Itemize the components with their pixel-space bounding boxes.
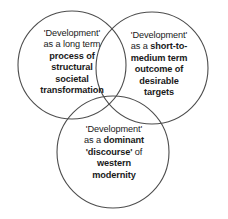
venn-label-right-line-2-bold: short-to- (150, 41, 187, 51)
venn-label-bottom-line-2: as a dominant (58, 135, 170, 146)
venn-label-bottom-line-2-plain: as a (84, 135, 103, 145)
venn-label-bottom-line-3-bold: 'discourse' (86, 147, 135, 157)
venn-label-right-line-3-bold: medium term (131, 53, 188, 63)
venn-label-right-line-5: desirable (104, 76, 214, 87)
venn-diagram: 'Development' as a long term process of … (0, 0, 228, 219)
venn-label-right-line-5-bold: desirable (139, 76, 178, 86)
venn-label-right-line-1: 'Development' (104, 30, 214, 41)
venn-label-left-line-3-bold: process of (49, 51, 94, 61)
venn-label-bottom-line-3: 'discourse' of (58, 147, 170, 158)
venn-label-right-line-6: targets (104, 87, 214, 98)
venn-label-bottom-line-3-plain: of (135, 147, 142, 157)
venn-label-left-line-5-bold: societal (55, 74, 88, 84)
venn-label-right-line-4-bold: outcome of (135, 64, 184, 74)
venn-label-right-line-6-bold: targets (144, 87, 174, 97)
venn-label-bottom-line-1: 'Development' (58, 124, 170, 135)
venn-label-bottom-line-5: modernity (58, 170, 170, 181)
venn-label-right-line-4: outcome of (104, 64, 214, 75)
venn-label-bottom-line-5-bold: modernity (92, 170, 136, 180)
venn-label-bottom-line-4: western (58, 158, 170, 169)
venn-label-bottom: 'Development' as a dominant 'discourse' … (58, 124, 170, 181)
venn-label-bottom-line-2-bold: dominant (103, 135, 144, 145)
venn-label-left-line-4-bold: structural (51, 62, 92, 72)
venn-label-right-line-2-plain: as a (131, 41, 150, 51)
venn-label-right-line-2: as a short-to- (104, 41, 214, 52)
venn-label-right: 'Development' as a short-to- medium term… (104, 30, 214, 98)
venn-label-bottom-line-4-bold: western (97, 158, 131, 168)
venn-label-left-line-6-bold: transformation (40, 85, 103, 95)
venn-label-right-line-3: medium term (104, 53, 214, 64)
